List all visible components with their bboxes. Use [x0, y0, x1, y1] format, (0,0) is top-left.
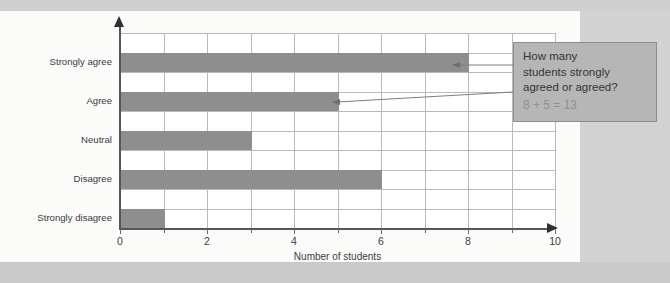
bar [121, 131, 252, 151]
callout-answer: 8 + 5 = 13 [523, 97, 648, 113]
x-axis-tick-label: 0 [100, 235, 140, 247]
x-axis-tick-major [120, 229, 121, 234]
x-axis-arrow-icon [547, 223, 558, 233]
x-axis-tick-label: 6 [361, 235, 401, 247]
x-axis-tick-minor [338, 229, 339, 233]
y-axis-category-label: Strongly disagree [0, 212, 112, 223]
x-axis-tick-minor [251, 229, 252, 233]
gridline-horizontal [120, 111, 555, 112]
page-background: 0246810 Strongly agreeAgreeNeutralDisagr… [0, 0, 670, 283]
top-gray-band [0, 0, 670, 11]
x-axis-title: Number of students [120, 251, 555, 262]
y-axis-category-label: Agree [0, 95, 112, 106]
x-axis-tick-minor [164, 229, 165, 233]
bar [121, 170, 382, 190]
x-axis-tick-major [555, 229, 556, 234]
x-axis-tick-major [207, 229, 208, 234]
callout-question-line-2: students strongly [523, 65, 648, 81]
bar-chart-figure: 0246810 Strongly agreeAgreeNeutralDisagr… [0, 11, 670, 262]
bottom-gray-band [0, 262, 670, 283]
y-axis-category-label: Disagree [0, 173, 112, 184]
callout-annotation-box: How many students strongly agreed or agr… [513, 42, 657, 122]
y-axis-arrow-icon [114, 16, 124, 27]
x-axis-tick-major [468, 229, 469, 234]
gridline-horizontal [120, 72, 555, 73]
x-axis-line [119, 228, 549, 230]
y-axis-line [119, 25, 121, 229]
x-axis-tick-label: 4 [274, 235, 314, 247]
gridline-horizontal [120, 189, 555, 190]
x-axis-tick-label: 10 [535, 235, 575, 247]
x-axis-tick-major [381, 229, 382, 234]
x-axis-tick-major [294, 229, 295, 234]
plot-area [120, 33, 555, 228]
y-axis-category-label: Strongly agree [0, 56, 112, 67]
bar [121, 53, 469, 73]
gridline-horizontal [120, 33, 555, 34]
callout-question-line-1: How many [523, 49, 648, 65]
bar [121, 209, 165, 229]
y-axis-category-label: Neutral [0, 134, 112, 145]
gridline-horizontal [120, 209, 555, 210]
x-axis-tick-label: 2 [187, 235, 227, 247]
x-axis-tick-label: 8 [448, 235, 488, 247]
gridline-horizontal [120, 150, 555, 151]
x-axis-tick-minor [425, 229, 426, 233]
x-axis-tick-minor [512, 229, 513, 233]
bar [121, 92, 339, 112]
callout-question-line-3: agreed or agreed? [523, 80, 648, 96]
